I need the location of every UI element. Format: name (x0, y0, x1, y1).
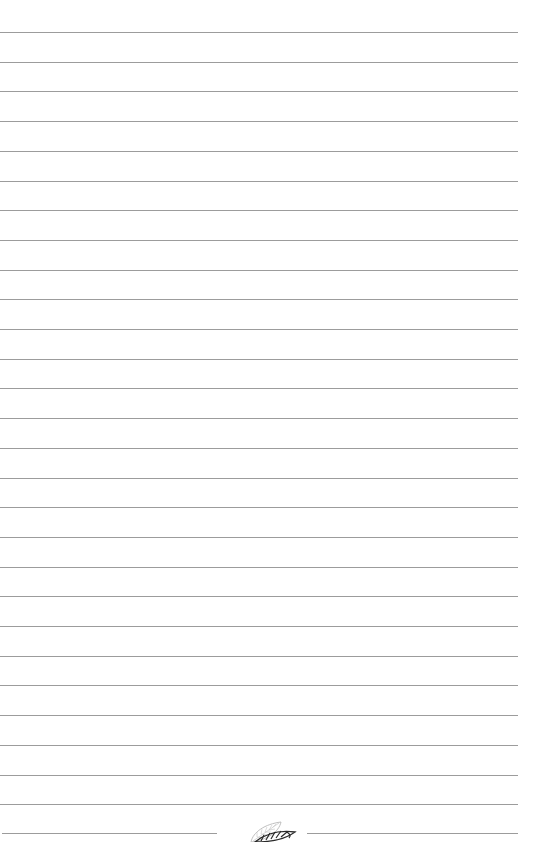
leaf-icon (243, 820, 299, 842)
ruled-line (0, 359, 518, 360)
ruled-line (0, 537, 518, 538)
ruled-line (0, 685, 518, 686)
ruled-line (0, 270, 518, 271)
ruled-line (0, 329, 518, 330)
ruled-line (0, 507, 518, 508)
ruled-line (0, 181, 518, 182)
ruled-line (0, 478, 518, 479)
ruled-line (0, 804, 518, 805)
ruled-line (0, 62, 518, 63)
ruled-line (0, 448, 518, 449)
ruled-line (0, 775, 518, 776)
ruled-line (0, 32, 518, 33)
ruled-line (0, 567, 518, 568)
ruled-line (0, 151, 518, 152)
ruled-line (0, 388, 518, 389)
ruled-line (0, 299, 518, 300)
ruled-line (0, 596, 518, 597)
ruled-line (0, 715, 518, 716)
ruled-line (0, 121, 518, 122)
ruled-line (0, 745, 518, 746)
ruled-line (0, 91, 518, 92)
footer-rule-left (2, 833, 217, 834)
ruled-line (0, 656, 518, 657)
ruled-line (0, 210, 518, 211)
ruled-line (0, 626, 518, 627)
footer-rule-right (307, 833, 518, 834)
notebook-page (0, 0, 535, 842)
ruled-line (0, 240, 518, 241)
ruled-line (0, 418, 518, 419)
